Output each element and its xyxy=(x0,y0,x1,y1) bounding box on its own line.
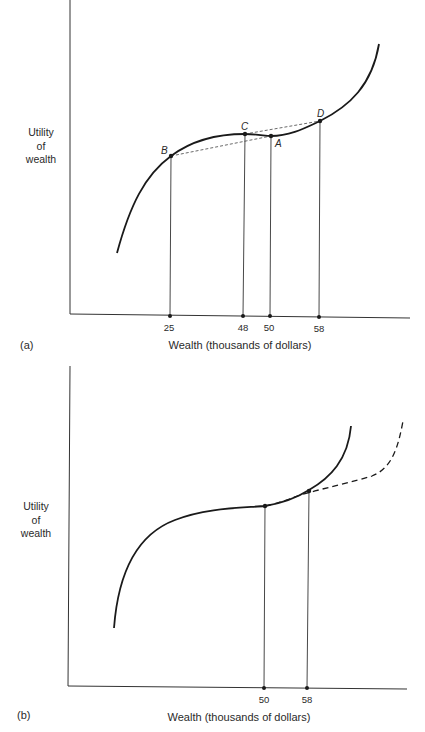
point-b xyxy=(169,154,173,158)
point-label-b: B xyxy=(161,145,168,156)
y-axis-title-a-line2: of xyxy=(37,140,46,152)
panel-label-a: (a) xyxy=(20,339,33,351)
point-a xyxy=(269,134,273,138)
x-axis-b xyxy=(68,686,407,689)
tick-dot-58 xyxy=(317,315,321,319)
point-b-50 xyxy=(263,504,267,508)
tick-label-50: 50 xyxy=(264,322,275,333)
x-axis-a xyxy=(70,314,410,318)
point-label-d: D xyxy=(317,108,324,119)
y-axis-title-a-line3: wealth xyxy=(25,153,57,165)
y-axis-title-b-line1: Utility xyxy=(23,500,49,512)
dropline-58 xyxy=(319,121,320,317)
point-label-a: A xyxy=(274,138,282,149)
dropline-b-50 xyxy=(264,506,265,688)
alternative-utility-curve-b xyxy=(265,421,403,506)
utility-curve-b xyxy=(114,426,351,628)
y-axis-title-b-line2: of xyxy=(32,514,41,526)
point-c xyxy=(243,132,247,136)
tick-dot-b-58 xyxy=(305,686,309,690)
panel-label-b: (b) xyxy=(17,709,30,721)
panel-a: B C A D 25 48 50 58 Wealth (thousands of… xyxy=(20,0,410,351)
y-axis-title-a-line1: Utility xyxy=(28,126,54,138)
y-axis-title-b-line3: wealth xyxy=(20,527,52,539)
figure: B C A D 25 48 50 58 Wealth (thousands of… xyxy=(0,0,425,732)
tick-label-58: 58 xyxy=(314,323,325,334)
utility-curve-a xyxy=(117,44,379,253)
tick-dot-48 xyxy=(241,314,245,318)
dropline-50 xyxy=(270,136,271,316)
point-b-58 xyxy=(307,489,311,493)
tick-label-25: 25 xyxy=(164,322,175,333)
y-axis-b xyxy=(68,366,70,686)
tick-label-b-50: 50 xyxy=(259,694,270,705)
tick-dot-50 xyxy=(268,314,272,318)
point-label-c: C xyxy=(241,121,249,132)
dropline-b-58 xyxy=(307,490,309,688)
tick-label-b-58: 58 xyxy=(302,694,313,705)
tick-dot-25 xyxy=(168,314,172,318)
dropline-48 xyxy=(243,134,245,316)
point-d xyxy=(318,119,322,123)
x-axis-title-b: Wealth (thousands of dollars) xyxy=(168,711,311,723)
x-axis-title-a: Wealth (thousands of dollars) xyxy=(169,339,312,351)
panel-b: 50 58 Wealth (thousands of dollars) Util… xyxy=(17,366,407,723)
dropline-25 xyxy=(170,156,171,315)
tick-dot-b-50 xyxy=(262,686,266,690)
chord-c-d xyxy=(245,121,320,134)
tick-label-48: 48 xyxy=(238,322,249,333)
